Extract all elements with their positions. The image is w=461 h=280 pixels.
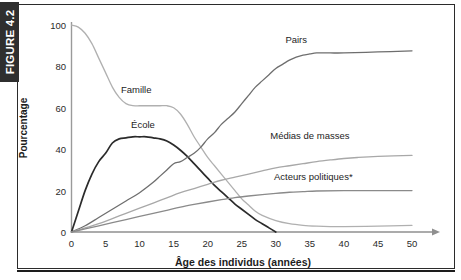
figure-number-label: FIGURE 4.2 [4,10,16,75]
series-label-2: Pairs [285,34,307,45]
x-tick-label: 15 [168,238,179,249]
x-tick-label: 30 [271,238,282,249]
x-tick-label: 20 [202,238,213,249]
x-tick-label: 45 [373,238,384,249]
x-tick-label: 40 [339,238,350,249]
x-tick-label: 0 [69,238,74,249]
series-label-1: École [131,119,155,130]
series-label-4: Acteurs politiques* [274,171,353,182]
x-axis-title: Âge des individus (années) [175,256,311,268]
series-label-0: Famille [121,84,152,95]
y-axis-title: Pourcentage [18,98,29,159]
x-tick-label: 50 [407,238,418,249]
y-tick-label: 80 [38,61,66,72]
x-tick-label: 25 [236,238,247,249]
figure-number-tab: FIGURE 4.2 [0,2,19,82]
y-tick-label: 20 [38,185,66,196]
y-tick-label: 100 [38,20,66,31]
figure-container: FIGURE 4.2 Pourcentage Âge des individus… [0,0,461,280]
x-tick-label: 5 [103,238,108,249]
x-tick-label: 10 [134,238,145,249]
y-tick-label: 0 [38,227,66,238]
x-tick-label: 35 [305,238,316,249]
figure-frame [17,4,455,269]
series-label-3: Médias de masses [270,129,349,140]
y-tick-label: 60 [38,102,66,113]
y-tick-label: 40 [38,144,66,155]
figure-bottom-rule [17,270,455,272]
